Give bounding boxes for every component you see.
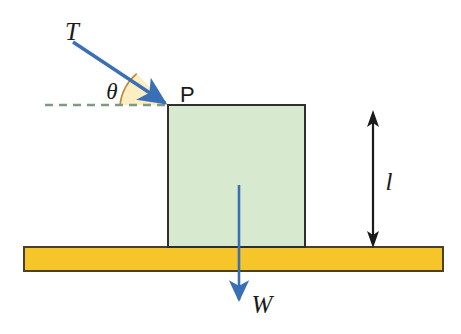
angle-label: θ xyxy=(106,79,117,104)
point-label: P xyxy=(180,82,195,107)
length-dimension xyxy=(367,110,379,248)
length-label: l xyxy=(386,168,393,195)
tension-force-arrow xyxy=(73,42,165,103)
weight-label: W xyxy=(252,291,275,318)
physics-diagram: T θ P W l xyxy=(0,0,461,334)
tension-label: T xyxy=(65,18,81,45)
ground-surface xyxy=(24,247,443,271)
diagram-canvas: T θ P W l xyxy=(0,0,461,334)
block-body xyxy=(168,105,305,247)
